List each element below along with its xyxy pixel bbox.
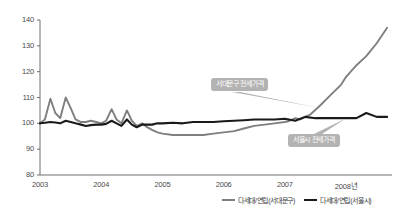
x-axis-tick-label: 2005 — [141, 180, 183, 189]
x-axis-tick-label: 2006 — [203, 180, 245, 189]
y-axis-tick-label: 90 — [12, 144, 34, 153]
y-axis-tick-label: 140 — [12, 15, 34, 24]
axes — [40, 20, 392, 175]
y-axis-tick-label: 100 — [12, 118, 34, 127]
annotation-callout-2: 서울시 전세가격 — [288, 134, 340, 147]
annotation-pointer-2 — [314, 118, 346, 134]
x-axis-tick-label: 2007 — [264, 180, 306, 189]
x-axis-tick-label: 2003 — [19, 180, 61, 189]
annotation-pointer-1 — [232, 92, 319, 108]
x-axis-tick-label: 2004 — [80, 180, 122, 189]
legend-swatch-icon — [304, 199, 317, 202]
y-axis-tick-label: 130 — [12, 41, 34, 50]
legend-swatch-icon — [222, 199, 235, 202]
y-axis-tick-label: 120 — [12, 67, 34, 76]
y-axis-tick-label: 80 — [12, 170, 34, 179]
chart-legend: 다세대/연립(서대문구)다세대/연립(서울시) — [222, 195, 371, 205]
x-axis-tick-label: 2008년 — [325, 180, 367, 191]
y-axis-tick-label: 110 — [12, 93, 34, 102]
legend-item-label: 다세대/연립(서대문구) — [238, 195, 295, 205]
annotation-callout-1: 서대문구 전세가격 — [211, 78, 268, 91]
legend-item-2[interactable]: 다세대/연립(서울시) — [304, 195, 371, 205]
legend-item-label: 다세대/연립(서울시) — [320, 195, 371, 205]
legend-item-1[interactable]: 다세대/연립(서대문구) — [222, 195, 295, 205]
chart-container: 8090100110120130140 20032004200520062007… — [0, 0, 398, 212]
